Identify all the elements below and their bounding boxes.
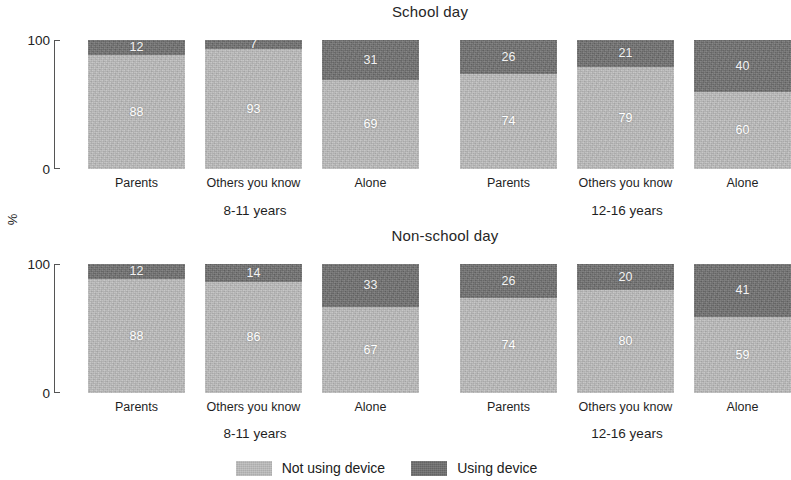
panel-title-non-school-day: Non-school day bbox=[355, 227, 535, 244]
bar-segment-not-using-device: 74 bbox=[460, 74, 557, 169]
bar-value-not-using-device: 74 bbox=[502, 115, 516, 128]
bar-school-8to11-alone: 31 69 bbox=[322, 40, 419, 169]
bar-value-using-device: 31 bbox=[364, 54, 378, 67]
group-label-nonschool-8to11: 8-11 years bbox=[155, 426, 355, 441]
bar-segment-using-device: 7 bbox=[205, 40, 302, 49]
bar-value-using-device: 20 bbox=[619, 271, 633, 284]
bar-school-8to11-parents: 12 88 bbox=[88, 40, 185, 169]
bar-value-using-device: 14 bbox=[247, 267, 261, 280]
bar-value-not-using-device: 80 bbox=[619, 335, 633, 348]
bar-value-not-using-device: 79 bbox=[619, 112, 633, 125]
y-axis-bracket-top bbox=[54, 40, 60, 169]
x-label-nonschool-12to16-parents: Parents bbox=[460, 400, 557, 414]
x-label-nonschool-8to11-parents: Parents bbox=[88, 400, 185, 414]
bar-segment-using-device: 12 bbox=[88, 264, 185, 279]
group-label-nonschool-12to16: 12-16 years bbox=[527, 426, 727, 441]
bar-segment-not-using-device: 79 bbox=[577, 67, 674, 169]
y-tick-100-top: 100 bbox=[8, 33, 50, 48]
bar-nonschool-8to11-parents: 12 88 bbox=[88, 264, 185, 393]
x-label-school-8to11-alone: Alone bbox=[322, 176, 419, 190]
panel-non-school-day: Non-school day 100 0 12 88 14 86 33 67 2… bbox=[0, 232, 773, 447]
bar-segment-not-using-device: 93 bbox=[205, 49, 302, 169]
panel-title-school-day: School day bbox=[355, 3, 505, 20]
bar-nonschool-12to16-others-you-know: 20 80 bbox=[577, 264, 674, 393]
bar-segment-not-using-device: 69 bbox=[322, 80, 419, 169]
legend-item-using-device[interactable]: Using device bbox=[411, 460, 537, 476]
x-label-nonschool-12to16-alone: Alone bbox=[694, 400, 791, 414]
legend-item-not-using-device[interactable]: Not using device bbox=[236, 460, 386, 476]
x-label-school-8to11-others-you-know: Others you know bbox=[205, 176, 302, 190]
bar-segment-using-device: 31 bbox=[322, 40, 419, 80]
legend-swatch-not-using-device bbox=[236, 461, 272, 476]
bar-value-using-device: 26 bbox=[502, 51, 516, 64]
bar-segment-not-using-device: 59 bbox=[694, 317, 791, 393]
x-label-school-12to16-parents: Parents bbox=[460, 176, 557, 190]
bar-nonschool-8to11-others-you-know: 14 86 bbox=[205, 264, 302, 393]
chart-legend: Not using device Using device bbox=[0, 460, 773, 476]
bar-segment-not-using-device: 88 bbox=[88, 55, 185, 169]
bar-nonschool-12to16-parents: 26 74 bbox=[460, 264, 557, 393]
bar-school-12to16-parents: 26 74 bbox=[460, 40, 557, 169]
x-label-nonschool-12to16-others-you-know: Others you know bbox=[577, 400, 674, 414]
x-label-school-8to11-parents: Parents bbox=[88, 176, 185, 190]
bar-segment-using-device: 40 bbox=[694, 40, 791, 92]
bar-value-using-device: 40 bbox=[736, 60, 750, 73]
x-label-nonschool-8to11-others-you-know: Others you know bbox=[205, 400, 302, 414]
x-label-school-12to16-alone: Alone bbox=[694, 176, 791, 190]
bar-value-using-device: 21 bbox=[619, 47, 633, 60]
y-tick-100-bottom: 100 bbox=[8, 257, 50, 272]
bar-school-12to16-alone: 40 60 bbox=[694, 40, 791, 169]
y-axis-title: % bbox=[5, 210, 20, 230]
group-label-school-12to16: 12-16 years bbox=[527, 203, 727, 218]
x-label-school-12to16-others-you-know: Others you know bbox=[577, 176, 674, 190]
x-label-nonschool-8to11-alone: Alone bbox=[322, 400, 419, 414]
bar-segment-not-using-device: 60 bbox=[694, 92, 791, 169]
bar-value-not-using-device: 93 bbox=[247, 103, 261, 116]
bar-value-using-device: 26 bbox=[502, 275, 516, 288]
bar-nonschool-12to16-alone: 41 59 bbox=[694, 264, 791, 393]
bar-value-using-device: 12 bbox=[130, 265, 144, 278]
legend-label-not-using-device: Not using device bbox=[282, 460, 386, 476]
bar-segment-using-device: 21 bbox=[577, 40, 674, 67]
bar-school-8to11-others-you-know: 7 93 bbox=[205, 40, 302, 169]
bar-value-not-using-device: 88 bbox=[130, 330, 144, 343]
bar-value-not-using-device: 74 bbox=[502, 339, 516, 352]
panel-school-day: School day 100 0 12 88 7 93 31 69 26 7 bbox=[0, 0, 773, 232]
bar-segment-using-device: 26 bbox=[460, 264, 557, 298]
bar-segment-not-using-device: 67 bbox=[322, 307, 419, 393]
bar-value-using-device: 41 bbox=[736, 284, 750, 297]
bar-segment-not-using-device: 88 bbox=[88, 279, 185, 393]
bar-segment-using-device: 33 bbox=[322, 264, 419, 307]
bar-value-not-using-device: 59 bbox=[736, 349, 750, 362]
bar-segment-not-using-device: 86 bbox=[205, 282, 302, 393]
bar-value-using-device: 33 bbox=[364, 279, 378, 292]
bar-nonschool-8to11-alone: 33 67 bbox=[322, 264, 419, 393]
bar-value-not-using-device: 69 bbox=[364, 118, 378, 131]
bar-segment-using-device: 14 bbox=[205, 264, 302, 282]
legend-swatch-using-device bbox=[411, 461, 447, 476]
bar-segment-not-using-device: 80 bbox=[577, 290, 674, 393]
legend-label-using-device: Using device bbox=[457, 460, 537, 476]
bar-value-using-device: 7 bbox=[250, 40, 257, 49]
group-label-school-8to11: 8-11 years bbox=[155, 203, 355, 218]
y-axis-bracket-bottom bbox=[54, 264, 60, 393]
bar-value-not-using-device: 86 bbox=[247, 331, 261, 344]
bar-value-using-device: 12 bbox=[130, 41, 144, 54]
y-tick-0-top: 0 bbox=[8, 162, 50, 177]
bar-segment-using-device: 41 bbox=[694, 264, 791, 317]
y-tick-0-bottom: 0 bbox=[8, 386, 50, 401]
bar-value-not-using-device: 60 bbox=[736, 124, 750, 137]
bar-segment-using-device: 26 bbox=[460, 40, 557, 74]
bar-value-not-using-device: 88 bbox=[130, 106, 144, 119]
bar-segment-using-device: 12 bbox=[88, 40, 185, 55]
bar-value-not-using-device: 67 bbox=[364, 344, 378, 357]
bar-segment-not-using-device: 74 bbox=[460, 298, 557, 393]
bar-school-12to16-others-you-know: 21 79 bbox=[577, 40, 674, 169]
bar-segment-using-device: 20 bbox=[577, 264, 674, 290]
